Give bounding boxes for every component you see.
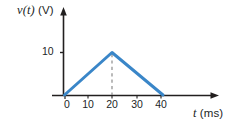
x-axis-label-unit: (ms) bbox=[200, 107, 223, 119]
voltage-waveform-curve bbox=[65, 53, 164, 96]
y-axis-label: v(t) (V) bbox=[17, 4, 54, 17]
x-tick-label-0: 0 bbox=[64, 99, 70, 110]
y-tick-label-10: 10 bbox=[42, 46, 54, 57]
y-axis bbox=[60, 7, 67, 96]
x-tick-label-10: 10 bbox=[82, 99, 94, 110]
x-tick-label-30: 30 bbox=[131, 99, 143, 110]
x-axis-label: t (ms) bbox=[193, 107, 223, 120]
x-axis-arrowhead bbox=[211, 92, 220, 99]
y-axis-arrowhead bbox=[60, 7, 67, 16]
waveform-figure: v(t) (V) t (ms) 10 0 10 20 30 40 bbox=[0, 0, 241, 126]
x-tick-label-20: 20 bbox=[106, 99, 118, 110]
x-axis-label-variable: t bbox=[193, 106, 197, 120]
x-tick-label-40: 40 bbox=[155, 99, 167, 110]
y-axis-label-unit: (V) bbox=[38, 4, 54, 16]
y-axis-label-argument: (t) bbox=[23, 3, 35, 17]
